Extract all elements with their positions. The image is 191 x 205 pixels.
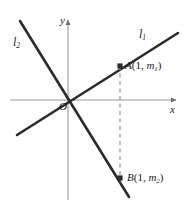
point-label-a-name: A: [125, 59, 132, 71]
point-label-b-name: B: [127, 171, 134, 183]
point-label-b: B(1, m2): [127, 172, 163, 183]
point-marker-b: [117, 175, 122, 180]
line-l2: [20, 21, 129, 197]
line-l1: [17, 33, 178, 135]
point-marker-a: [117, 63, 122, 68]
point-label-a-subscript: 1: [154, 65, 157, 72]
line-label-l1-subscript: 1: [142, 33, 146, 42]
origin-label: O: [59, 101, 67, 112]
line-label-l1: l1: [139, 28, 146, 40]
line-label-l2: l2: [13, 36, 20, 48]
x-axis-label: x: [170, 104, 175, 115]
line-label-l2-subscript: 2: [16, 41, 20, 50]
point-label-a: A(1, m1): [125, 60, 161, 71]
y-axis-label: y: [60, 15, 65, 26]
point-label-a-close: ): [158, 59, 162, 71]
point-label-b-close: ): [160, 171, 164, 183]
point-label-b-subscript: 2: [156, 177, 159, 184]
coordinate-geometry-figure: l1 l2 y x O A(1, m1) B(1, m2): [0, 0, 191, 205]
